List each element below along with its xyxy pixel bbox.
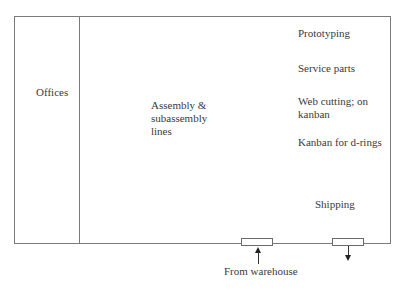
outbound-arrow-down-icon xyxy=(345,255,351,261)
office-divider-wall xyxy=(79,16,80,244)
wall-right xyxy=(390,16,391,244)
zone-offices-label: Offices xyxy=(36,86,68,99)
inbound-arrow-shaft xyxy=(258,252,259,264)
from-warehouse-label: From warehouse xyxy=(224,265,298,278)
zone-assembly-line1: Assembly & xyxy=(151,99,207,112)
wall-top xyxy=(14,16,391,17)
outbound-door xyxy=(332,238,364,246)
zone-prototyping-label: Prototyping xyxy=(298,27,350,40)
zone-web-cutting-line2: kanban xyxy=(298,108,368,121)
zone-assembly-line3: lines xyxy=(151,125,207,138)
zone-assembly-line2: subassembly xyxy=(151,112,207,125)
zone-web-cutting-label: Web cutting; on kanban xyxy=(298,95,368,121)
zone-kanban-drings-label: Kanban for d-rings xyxy=(298,136,382,149)
inbound-door xyxy=(241,238,273,246)
zone-service-parts-label: Service parts xyxy=(298,62,355,75)
zone-web-cutting-line1: Web cutting; on xyxy=(298,95,368,108)
zone-shipping-label: Shipping xyxy=(315,198,355,211)
zone-assembly-label: Assembly & subassembly lines xyxy=(151,99,207,138)
wall-left xyxy=(14,16,15,244)
